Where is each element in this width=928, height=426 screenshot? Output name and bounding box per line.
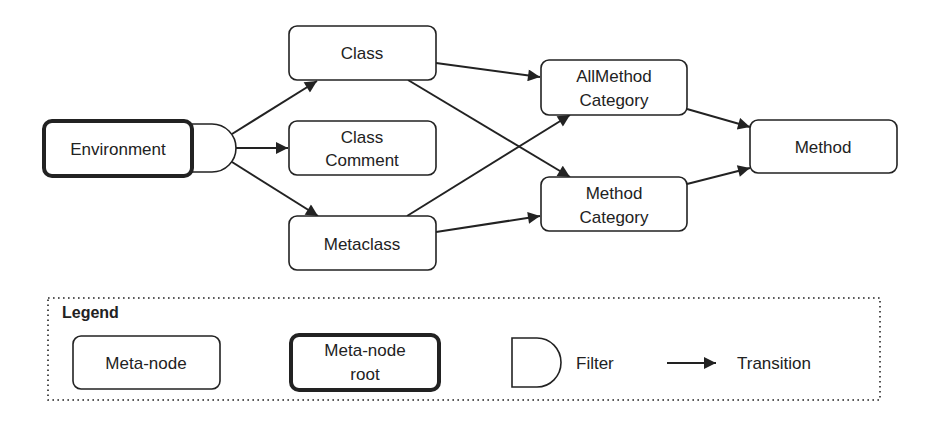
node-method-label: Method: [795, 138, 852, 157]
legend: Legend Meta-node Meta-node root Filter T…: [48, 298, 880, 400]
node-allmethod-category-label-line1: AllMethod: [576, 67, 652, 86]
legend-filter-label: Filter: [576, 354, 614, 373]
edge-method-category-method: [687, 168, 750, 184]
node-class-label: Class: [341, 44, 384, 63]
node-class-comment-label-line2: Comment: [325, 151, 399, 170]
node-class[interactable]: Class: [289, 26, 436, 80]
legend-meta-node-label: Meta-node: [105, 354, 186, 373]
legend-meta-node-root: Meta-node root: [291, 335, 439, 390]
node-class-comment[interactable]: Class Comment: [289, 121, 436, 175]
node-method-category-label-line2: Category: [580, 208, 649, 227]
legend-filter-icon: [512, 338, 561, 387]
legend-title: Legend: [62, 304, 119, 321]
node-method[interactable]: Method: [750, 120, 897, 173]
filter-shape: [192, 124, 236, 172]
node-environment[interactable]: Environment: [44, 121, 192, 176]
edge-metaclass-method-category: [436, 216, 540, 232]
node-class-comment-label-line1: Class: [341, 128, 384, 147]
node-allmethod-category[interactable]: AllMethod Category: [541, 60, 687, 115]
legend-meta-node: Meta-node: [73, 336, 220, 389]
edge-class-allmethod-category: [436, 63, 540, 77]
node-method-category[interactable]: Method Category: [541, 177, 687, 231]
edge-allmethod-category-method: [687, 109, 750, 127]
legend-meta-node-root-label-line2: root: [350, 365, 380, 384]
node-metaclass[interactable]: Metaclass: [289, 216, 436, 270]
node-method-category-label-line1: Method: [586, 184, 643, 203]
node-metaclass-label: Metaclass: [324, 235, 401, 254]
legend-meta-node-root-label-line1: Meta-node: [324, 341, 405, 360]
legend-transition-label: Transition: [737, 354, 811, 373]
node-allmethod-category-label-line2: Category: [580, 91, 649, 110]
diagram-canvas: Environment Class Class Comment Metaclas…: [0, 0, 928, 426]
node-environment-label: Environment: [70, 140, 166, 159]
